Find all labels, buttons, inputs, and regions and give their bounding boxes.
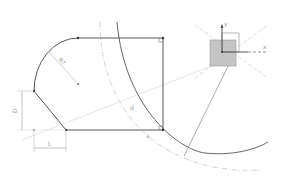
vertex-point[interactable] (162, 129, 164, 131)
x-axis-label: x (263, 43, 267, 50)
tangent-label: a (146, 132, 150, 139)
vertical-dimension-label[interactable]: D (11, 108, 18, 113)
vertex-point[interactable] (162, 37, 164, 39)
horizontal-dimension-label[interactable]: L (48, 140, 52, 147)
sketch-canvas[interactable]: R? D L d a x y (0, 0, 288, 192)
dim-point (33, 129, 35, 131)
vertex-point[interactable] (77, 37, 79, 39)
y-axis-label: y (224, 20, 228, 28)
radius-line-large[interactable] (184, 58, 232, 156)
tangent-label: d (130, 104, 134, 111)
chamfer-edge[interactable] (34, 91, 66, 130)
corner-arc[interactable] (34, 38, 78, 91)
origin-point[interactable] (221, 51, 223, 53)
origin-plane[interactable] (210, 40, 236, 66)
radius-dimension-label[interactable]: R? (57, 56, 67, 66)
